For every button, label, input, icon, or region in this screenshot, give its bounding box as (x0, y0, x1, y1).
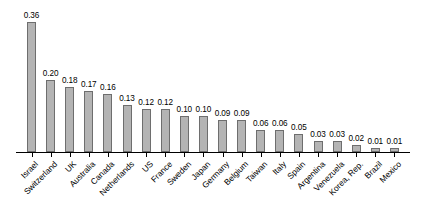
bar-group: 0.10 (175, 116, 194, 152)
x-axis-tick (223, 153, 224, 157)
bar (333, 141, 342, 152)
x-axis-tick (337, 153, 338, 157)
bar (199, 116, 208, 152)
bar (84, 91, 93, 152)
bar (314, 141, 323, 152)
x-axis-tick (356, 153, 357, 157)
bar (256, 130, 265, 152)
x-axis-tick (280, 153, 281, 157)
bar (180, 116, 189, 152)
bar-value-label: 0.16 (92, 83, 123, 92)
x-axis-tick (89, 153, 90, 157)
bar-value-label: 0.36 (16, 11, 47, 20)
bar-group: 0.20 (41, 80, 60, 152)
bar-chart: 0.36Israel0.20Switzerland0.18UK0.17Austr… (0, 0, 435, 217)
bar (65, 87, 74, 152)
x-axis-tick (32, 153, 33, 157)
bar-group: 0.36 (22, 22, 41, 152)
x-axis-tick (108, 153, 109, 157)
x-axis-tick (375, 153, 376, 157)
x-axis-tick (394, 153, 395, 157)
bar (275, 130, 284, 152)
x-axis-tick (318, 153, 319, 157)
bar-group: 0.09 (213, 120, 232, 153)
bar-group: 0.03 (328, 141, 347, 152)
bar (161, 109, 170, 152)
bar-group: 0.12 (156, 109, 175, 152)
x-axis-tick (299, 153, 300, 157)
bar-group: 0.17 (79, 91, 98, 152)
bar-group: 0.10 (194, 116, 213, 152)
bar-value-label: 0.01 (379, 137, 410, 146)
bar-value-label: 0.09 (226, 109, 257, 118)
bar-group: 0.06 (270, 130, 289, 152)
bar (142, 109, 151, 152)
x-axis-tick (242, 153, 243, 157)
bar (27, 22, 36, 152)
bar (390, 148, 399, 152)
x-axis-tick (261, 153, 262, 157)
bar-group: 0.13 (118, 105, 137, 152)
x-axis-tick (127, 153, 128, 157)
bar (123, 105, 132, 152)
bar-group: 0.01 (366, 148, 385, 152)
bar (371, 148, 380, 152)
bar-group: 0.01 (385, 148, 404, 152)
x-axis-tick (165, 153, 166, 157)
x-axis-line (16, 152, 410, 153)
plot-area: 0.36Israel0.20Switzerland0.18UK0.17Austr… (0, 0, 435, 217)
x-axis-tick (184, 153, 185, 157)
x-axis-tick (146, 153, 147, 157)
bar-group: 0.12 (137, 109, 156, 152)
bar-group: 0.18 (60, 87, 79, 152)
bar (218, 120, 227, 153)
x-axis-tick (51, 153, 52, 157)
x-axis-tick (70, 153, 71, 157)
x-axis-tick (203, 153, 204, 157)
bar-group: 0.06 (251, 130, 270, 152)
bar (46, 80, 55, 152)
bar-group: 0.03 (309, 141, 328, 152)
